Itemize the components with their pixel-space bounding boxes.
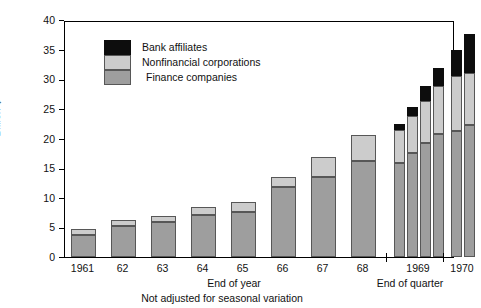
- legend-item: Nonfinancial corporations: [104, 55, 274, 70]
- legend-label: Bank affiliates: [142, 40, 207, 55]
- bar-segment-finance: [271, 187, 296, 258]
- legend-item: Bank affiliates: [104, 40, 274, 55]
- x-tick-label: 62: [117, 262, 129, 274]
- legend: Bank affiliatesNonfinancial corporations…: [104, 40, 274, 85]
- bar-segment-finance: [151, 222, 176, 257]
- bar: [407, 107, 418, 257]
- bar-segment-finance: [433, 134, 444, 257]
- x-tick-label: 1969: [406, 262, 429, 274]
- bar-segment-nonfin: [71, 229, 96, 235]
- bar-segment-bank: [451, 50, 462, 76]
- bar-segment-finance: [451, 131, 462, 257]
- bar: [351, 135, 376, 257]
- bar-segment-finance: [394, 163, 405, 257]
- y-tick-label: 25: [43, 103, 55, 116]
- bar-segment-finance: [231, 212, 256, 257]
- bar-segment-nonfin: [451, 76, 462, 132]
- bar: [71, 229, 96, 257]
- y-tick-label: 40: [43, 14, 55, 27]
- bar-segment-finance: [71, 235, 96, 258]
- y-tick-label: 35: [43, 44, 55, 57]
- bar-segment-bank: [433, 68, 444, 86]
- bar-segment-finance: [407, 153, 418, 257]
- x-tick-label: 64: [197, 262, 209, 274]
- figure-note: Not adjusted for seasonal variation: [141, 292, 303, 304]
- bar: [394, 124, 405, 257]
- x-axis-caption-left: End of year: [207, 277, 261, 289]
- x-tick-label: 1970: [450, 262, 473, 274]
- legend-item: Finance companies: [104, 70, 274, 85]
- bar-segment-nonfin: [271, 177, 296, 186]
- legend-swatch-finance: [104, 70, 131, 85]
- x-group-separator: [386, 253, 387, 262]
- x-tick-label: 1961: [71, 262, 94, 274]
- bar-segment-finance: [464, 125, 475, 257]
- bar-segment-nonfin: [191, 207, 216, 215]
- legend-swatch-nonfin: [104, 55, 131, 70]
- bar-segment-nonfin: [111, 220, 136, 226]
- bar-segment-bank: [420, 86, 431, 101]
- bar-segment-nonfin: [351, 135, 376, 161]
- y-tick-label: 30: [43, 73, 55, 86]
- x-tick-label: 63: [157, 262, 169, 274]
- bar-segment-nonfin: [420, 101, 431, 143]
- bar: [464, 34, 475, 257]
- y-tick-label: 20: [43, 133, 55, 146]
- bar: [311, 157, 336, 257]
- bar: [433, 68, 444, 257]
- bar-segment-bank: [407, 107, 418, 116]
- y-axis-title: Billion $: [0, 83, 2, 153]
- y-tick-label: 0: [49, 251, 55, 264]
- bar-segment-nonfin: [394, 130, 405, 163]
- bar: [151, 216, 176, 257]
- bar-segment-finance: [111, 226, 136, 257]
- x-tick-label: 68: [357, 262, 369, 274]
- bar-segment-nonfin: [407, 116, 418, 153]
- bar: [231, 202, 256, 257]
- bar-segment-bank: [464, 34, 475, 73]
- bar-segment-finance: [191, 215, 216, 257]
- y-tick-label: 15: [43, 162, 55, 175]
- y-tick-label: 10: [43, 192, 55, 205]
- chart-figure: Billion $ 4035302520151050 1961626364656…: [0, 0, 481, 308]
- bar: [420, 86, 431, 257]
- bar: [191, 207, 216, 257]
- bar: [271, 177, 296, 257]
- x-tick-label: 67: [317, 262, 329, 274]
- bar-segment-finance: [311, 177, 336, 257]
- x-tick-label: 65: [237, 262, 249, 274]
- x-tick-label: 66: [277, 262, 289, 274]
- y-tick-label: 5: [49, 221, 55, 234]
- bar-segment-finance: [351, 161, 376, 257]
- bar-segment-nonfin: [433, 86, 444, 134]
- x-axis-caption-right: End of quarter: [377, 277, 444, 289]
- bar-segment-nonfin: [464, 73, 475, 126]
- bar: [111, 220, 136, 257]
- legend-swatch-bank: [104, 40, 131, 55]
- bar: [451, 50, 462, 257]
- bar-segment-nonfin: [231, 202, 256, 212]
- bar-segment-nonfin: [311, 157, 336, 177]
- bar-segment-bank: [394, 124, 405, 129]
- legend-label: Finance companies: [146, 70, 237, 85]
- bar-segment-finance: [420, 143, 431, 257]
- legend-label: Nonfinancial corporations: [142, 55, 260, 70]
- bar-segment-nonfin: [151, 216, 176, 223]
- x-group-separator: [443, 253, 444, 262]
